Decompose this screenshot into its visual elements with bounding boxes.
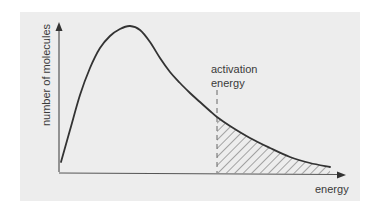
y-axis-arrow-icon [56,22,63,31]
activation-energy-label-line2: energy [211,76,257,90]
diagram-stage: number of molecules energy activation en… [0,0,374,211]
y-axis-label: number of molecules [40,24,53,126]
activation-shaded-area [217,117,330,174]
activation-energy-label-line1: activation [211,62,257,76]
activation-energy-label: activation energy [211,62,257,90]
x-axis-arrow-icon [337,172,346,179]
distribution-curve [61,26,330,167]
x-axis-label: energy [315,183,349,196]
energy-distribution-diagram [0,0,374,211]
